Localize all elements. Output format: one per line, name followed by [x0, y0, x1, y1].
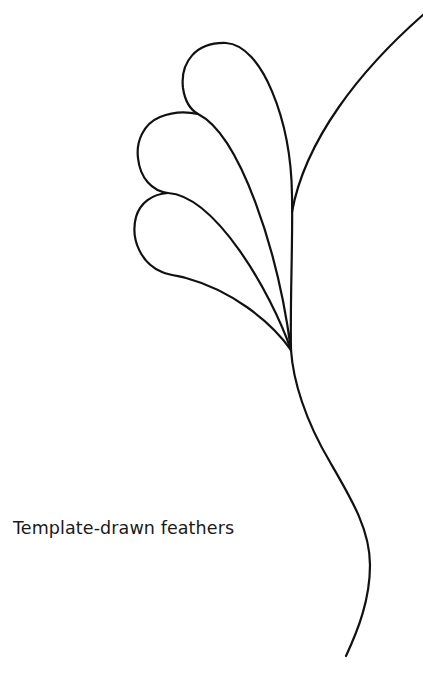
middle-feather — [138, 112, 291, 350]
main-spine — [291, 350, 370, 656]
figure-caption: Template-drawn feathers — [13, 518, 234, 538]
feather-figure: Template-drawn feathers — [0, 0, 423, 674]
top-feather — [183, 43, 293, 350]
feather-drawing — [0, 0, 423, 674]
right-stem-curve — [292, 14, 423, 212]
